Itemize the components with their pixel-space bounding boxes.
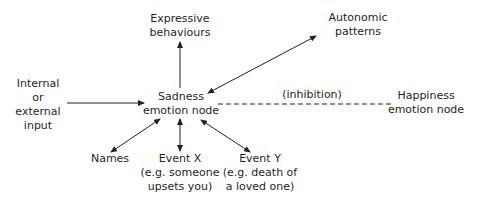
node-text: external xyxy=(15,105,60,119)
names-node: Names xyxy=(91,152,129,166)
arrow-autonomic xyxy=(208,36,316,93)
arrow-names xyxy=(111,119,160,152)
node-text: input xyxy=(15,119,60,133)
event-x-node: Event X (e.g. someone upsets you) xyxy=(141,152,220,194)
node-text: emotion node xyxy=(388,103,464,117)
node-text: Names xyxy=(91,152,129,166)
node-text: Sadness xyxy=(143,90,219,104)
node-text: Internal xyxy=(15,77,60,91)
node-text: behaviours xyxy=(150,26,211,40)
node-text: patterns xyxy=(328,25,387,39)
node-text: (e.g. someone xyxy=(141,166,220,180)
node-text: Event Y xyxy=(223,152,297,166)
inhibition-label: (inhibition) xyxy=(282,88,342,102)
node-text: Expressive xyxy=(150,12,211,26)
autonomic-patterns-node: Autonomic patterns xyxy=(328,11,387,39)
arrow-event-y xyxy=(201,120,250,152)
node-text: upsets you) xyxy=(141,180,220,194)
emotion-node-diagram: Expressive behaviours Autonomic patterns… xyxy=(0,0,482,204)
node-text: or xyxy=(15,91,60,105)
node-text: Autonomic xyxy=(328,11,387,25)
event-y-node: Event Y (e.g. death of a loved one) xyxy=(223,152,297,194)
input-node: Internal or external input xyxy=(15,77,60,133)
node-text: (e.g. death of xyxy=(223,166,297,180)
expressive-behaviours-node: Expressive behaviours xyxy=(150,12,211,40)
sadness-emotion-node: Sadness emotion node xyxy=(143,90,219,118)
node-text: Happiness xyxy=(388,89,464,103)
node-text: a loved one) xyxy=(223,180,297,194)
node-text: Event X xyxy=(141,152,220,166)
node-text: emotion node xyxy=(143,104,219,118)
happiness-emotion-node: Happiness emotion node xyxy=(388,89,464,117)
